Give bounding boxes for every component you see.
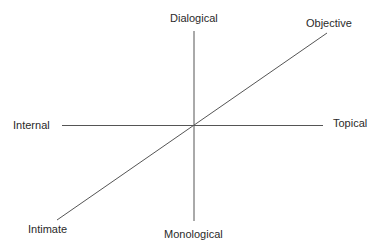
diagonal-axis-intimate-objective xyxy=(57,33,327,220)
label-intimate: Intimate xyxy=(28,223,67,236)
label-monological: Monological xyxy=(164,228,223,241)
label-dialogical: Dialogical xyxy=(170,12,218,25)
label-internal: Internal xyxy=(13,119,50,132)
label-topical: Topical xyxy=(333,117,367,130)
three-axis-diagram xyxy=(0,0,382,245)
label-objective: Objective xyxy=(306,17,352,30)
